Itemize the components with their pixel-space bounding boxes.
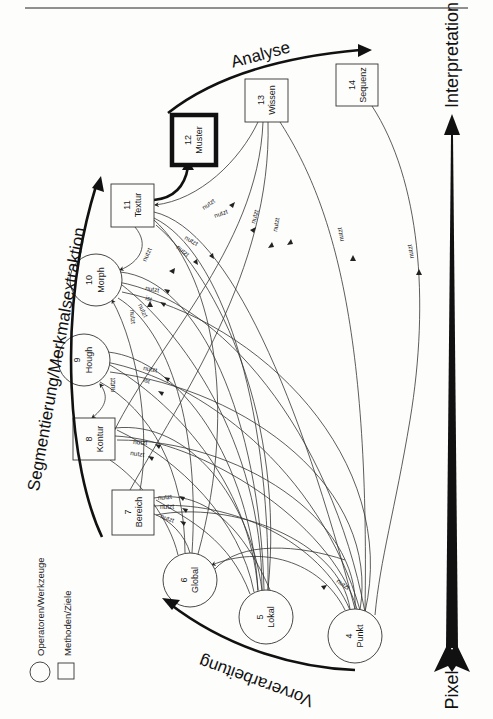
node-label: Hough xyxy=(84,347,94,374)
legend: Operatoren/Werkzeuge Methoden/Ziele xyxy=(30,557,74,682)
axis-shaft xyxy=(446,135,458,648)
edge-label-wissen-punkt: nutzt xyxy=(336,227,345,242)
node-muster: 12 Muster xyxy=(172,115,216,165)
diagram-canvas: nutzt nutzt nutzt nutzt nutzt nutzt nutz… xyxy=(0,0,493,719)
edge-label-sequenz-punkt: nutzt xyxy=(406,244,415,259)
edge-label-textur-morph: nutzt xyxy=(141,247,153,263)
edge-label-hough-punkt: ist xyxy=(143,376,151,384)
edge-textur-muster xyxy=(154,167,188,200)
node-global: 6 Global xyxy=(163,553,217,607)
node-label: Bereich xyxy=(134,497,144,528)
node-number: 6 xyxy=(179,577,189,582)
edge-label-textur-punkt: nutzt xyxy=(175,243,190,258)
legend-square-icon xyxy=(58,663,74,679)
node-textur: 11 Textur xyxy=(111,184,154,227)
node-number: 5 xyxy=(255,614,265,619)
phase-label-vorverarbeitung: Vorverarbeitung xyxy=(196,652,315,711)
node-label: Global xyxy=(190,567,200,593)
edge-label-kontur-lokal: nutzt xyxy=(133,438,148,446)
node-number: 12 xyxy=(183,135,193,145)
edge-textur-morph xyxy=(120,227,142,270)
node-number: 9 xyxy=(72,357,82,362)
node-number: 14 xyxy=(347,80,357,90)
edge-sequenz-punkt xyxy=(372,106,420,615)
node-label: Muster xyxy=(194,126,204,154)
legend-circle-icon xyxy=(30,662,50,682)
node-number: 8 xyxy=(84,436,94,441)
node-lokal: 5 Lokal xyxy=(239,590,293,644)
book-page: nutzt nutzt nutzt nutzt nutzt nutzt nutz… xyxy=(0,0,493,719)
node-number: 11 xyxy=(122,200,132,209)
node-label: Sequenz xyxy=(358,67,368,103)
edge-label-morph-lokal: nutzt xyxy=(145,284,160,293)
edge-label-bereich-lokal: nutzt xyxy=(157,493,172,501)
node-number: 7 xyxy=(123,509,133,514)
edge-labels: nutzt nutzt nutzt nutzt nutzt nutzt nutz… xyxy=(109,197,415,591)
node-label: Punkt xyxy=(355,624,365,648)
edges xyxy=(92,106,420,615)
arrowhead-analyse xyxy=(358,44,372,57)
edge-label-textur-lokal: nutzt xyxy=(184,234,200,247)
edge-label-morph-bereich: nutzt xyxy=(129,309,137,324)
edge-label-morph-punkt: ist xyxy=(145,294,153,302)
edge-label-kontur-punkt: nutzt xyxy=(130,449,145,458)
node-label: Lokal xyxy=(266,606,276,628)
node-label: Textur xyxy=(133,193,143,218)
edge-lokal-textur xyxy=(156,225,271,590)
nodes: 4 Punkt 5 Lokal 6 Global 7 Bereich 8 Kon… xyxy=(58,64,382,663)
node-sequenz: 14 Sequenz xyxy=(336,64,378,106)
node-label: Kontur xyxy=(95,426,105,453)
node-punkt: 4 Punkt xyxy=(328,609,382,663)
edge-label-kontur-hough: nutzt xyxy=(109,378,116,392)
axis-label-pixel: Pixel xyxy=(442,670,462,709)
node-label: Wissen xyxy=(267,85,277,115)
edge-morph-bereich xyxy=(112,300,144,490)
node-wissen: 13 Wissen xyxy=(245,79,288,122)
edge-label-hough-lokal: nutzt xyxy=(143,364,158,373)
edge-label-textur-muster: nutzt xyxy=(201,197,217,211)
edge-kontur-hough xyxy=(92,384,105,418)
edge-label-wissen-textur: nutzt xyxy=(213,207,229,218)
node-label: Morph xyxy=(96,267,106,293)
node-bereich: 7 Bereich xyxy=(112,490,154,535)
edge-hough-punkt xyxy=(106,362,360,610)
legend-label-operators: Operatoren/Werkzeuge xyxy=(35,557,46,656)
edge-label-wissen-bereich: nutzt xyxy=(271,217,280,232)
node-number: 10 xyxy=(84,275,94,285)
axis-label-interpretation: Interpretation xyxy=(442,2,462,108)
edge-lokal-morph xyxy=(122,285,262,590)
abstraction-axis: Pixel Interpretation xyxy=(434,2,470,710)
legend-label-methods: Methoden/Ziele xyxy=(62,591,73,656)
edge-label-bereich-punkt: nutzt xyxy=(160,503,174,510)
edge-label-bereich-global: nutzt xyxy=(160,512,176,523)
axis-arrowhead xyxy=(444,114,460,135)
node-number: 4 xyxy=(344,633,354,638)
node-number: 13 xyxy=(256,95,266,105)
